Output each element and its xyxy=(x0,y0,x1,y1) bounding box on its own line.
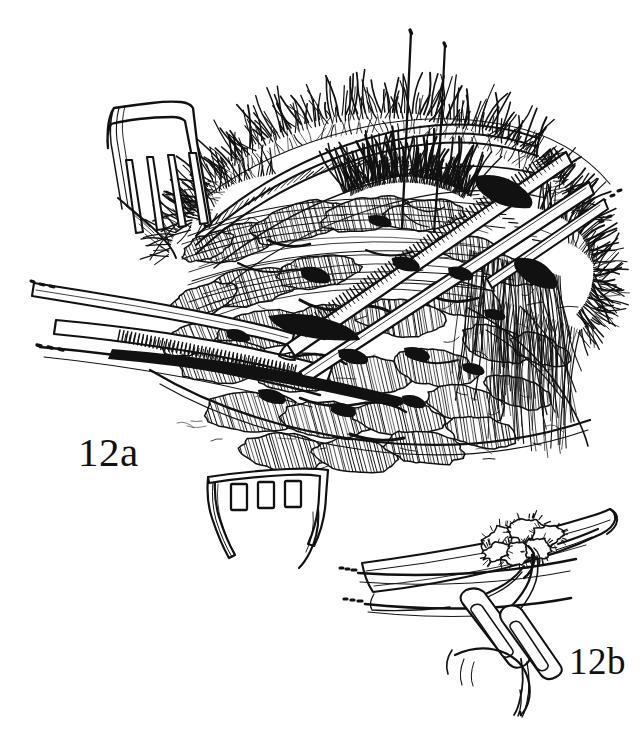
surgical-illustration xyxy=(0,0,641,733)
panel-label-12b: 12b xyxy=(569,643,626,680)
panel-label-12a: 12a xyxy=(78,432,139,473)
figure-canvas: 12a 12b xyxy=(0,0,641,733)
